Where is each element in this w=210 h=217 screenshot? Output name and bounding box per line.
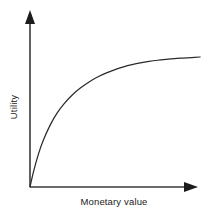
utility-curve-figure: Monetary value Utility [0, 0, 210, 217]
plot-canvas: Monetary value Utility [0, 0, 210, 217]
x-axis-arrowhead [184, 182, 198, 192]
y-axis-label: Utility [8, 95, 19, 119]
utility-curve-line [30, 57, 200, 187]
y-axis-arrowhead [25, 10, 35, 24]
x-axis-label: Monetary value [80, 196, 147, 207]
